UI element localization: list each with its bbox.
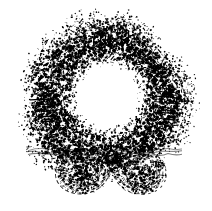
wreath-illustration: Antique engraved illustration of a round…: [0, 0, 212, 211]
wreath-center-hole: [81, 70, 135, 124]
illustration-frame: Antique engraved illustration of a round…: [0, 0, 212, 211]
